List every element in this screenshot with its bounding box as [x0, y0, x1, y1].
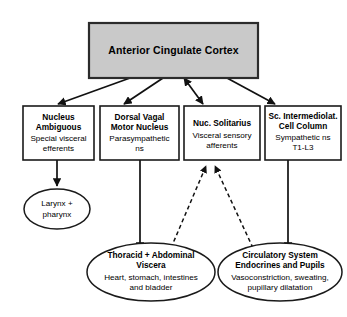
dorsal-vagal-sub-line2: ns: [135, 144, 144, 153]
sc-intermediolateral-sub-line1: Sympathetic ns: [275, 133, 330, 142]
sc-intermediolateral-sub-line2: T1-L3: [292, 143, 314, 152]
dorsal-vagal-sub-line1: Parasympathetic: [109, 134, 169, 143]
thoracic-sub-line1: Heart, stomach, intestines: [104, 273, 198, 282]
edge-acc-to-nuc-solitarius: [184, 78, 203, 104]
edge-acc-to-sc-intermediolateral: [227, 78, 275, 104]
node-thoracic-abdominal-viscera[interactable]: Thoracid + Abdominal Viscera Heart, stom…: [87, 243, 215, 301]
edge-group-afferent-feedback: [171, 166, 253, 248]
nuc-solitarius-sub-line2: afferents: [206, 141, 237, 150]
edge-acc-to-nucleus-ambiguous: [58, 78, 130, 104]
node-circulatory-system-endocrines-pupils[interactable]: Circulatory System Endocrines and Pupils…: [218, 243, 342, 301]
larynx-pharynx-line2: pharynx: [43, 210, 72, 219]
sc-intermediolateral-head-line2: Cell Column: [279, 121, 327, 131]
dorsal-vagal-head-line2: Motor Nucleus: [111, 122, 169, 132]
node-larynx-pharynx[interactable]: Larynx + pharynx: [24, 189, 90, 229]
nuc-solitarius-head-line1: Nuc. Solitarius: [193, 118, 251, 128]
circulatory-sub-line1: Vasoconstriction, sweating,: [231, 273, 328, 282]
edge-group-cortex-to-nuclei: [58, 78, 275, 104]
circulatory-sub-line2: pupillary dilatation: [248, 283, 313, 292]
node-anterior-cingulate-cortex[interactable]: Anterior Cingulate Cortex: [89, 23, 258, 78]
edge-circulatory-to-nuc-solitarius: [215, 166, 253, 248]
diagram-canvas: Anterior Cingulate Cortex Nucleus Ambigu…: [0, 0, 347, 317]
anterior-cingulate-cortex-label: Anterior Cingulate Cortex: [108, 44, 238, 56]
thoracic-head-line2: Viscera: [136, 260, 166, 270]
sc-intermediolateral-head-line1: Sc. Intermediolat.: [268, 111, 337, 121]
dorsal-vagal-head-line1: Dorsal Vagal: [115, 112, 165, 122]
nucleus-ambiguous-sub-line2: efferents: [43, 144, 74, 153]
nucleus-ambiguous-head-line1: Nucleus: [42, 112, 75, 122]
nuc-solitarius-sub-line1: Visceral sensory: [192, 131, 252, 140]
anterior-cingulate-cortex-diagram: Anterior Cingulate Cortex Nucleus Ambigu…: [0, 0, 347, 317]
larynx-pharynx-line1: Larynx +: [41, 199, 73, 208]
thoracic-sub-line2: and bladder: [130, 283, 173, 292]
node-dorsal-vagal-motor-nucleus[interactable]: Dorsal Vagal Motor Nucleus Parasympathet…: [100, 106, 179, 160]
edge-acc-to-dorsal-vagal: [124, 78, 163, 104]
node-nucleus-ambiguous[interactable]: Nucleus Ambiguous Special visceral effer…: [23, 106, 94, 160]
nucleus-ambiguous-sub-line1: Special visceral: [30, 134, 86, 143]
node-sc-intermediolateral-cell-column[interactable]: Sc. Intermediolat. Cell Column Sympathet…: [265, 106, 341, 160]
node-nuc-solitarius[interactable]: Nuc. Solitarius Visceral sensory afferen…: [184, 106, 260, 160]
edge-group-nuclei-to-targets: [57, 160, 288, 250]
thoracic-head-line1: Thoracid + Abdominal: [107, 250, 194, 260]
nucleus-ambiguous-head-line2: Ambiguous: [36, 122, 82, 132]
circulatory-head-line2: Endocrines and Pupils: [235, 260, 325, 270]
edge-thoracic-to-nuc-solitarius: [171, 166, 206, 248]
larynx-pharynx-ellipse[interactable]: [24, 189, 90, 229]
circulatory-head-line1: Circulatory System: [242, 250, 318, 260]
